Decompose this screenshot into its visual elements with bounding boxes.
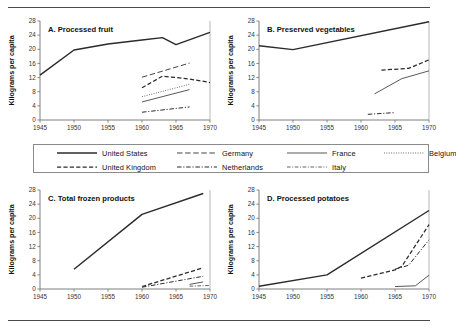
x-tick-label: 1945: [252, 124, 267, 131]
legend-swatch-germany: [176, 149, 218, 157]
x-tick-label: 1955: [101, 124, 116, 131]
series-line-united-states: [74, 194, 203, 270]
x-tick-label: 1945: [33, 124, 48, 131]
x-tick-label: 1945: [252, 293, 267, 300]
x-tick-label: 1965: [169, 293, 184, 300]
series-line-united-states: [40, 32, 210, 75]
legend-label-netherlands: Netherlands: [222, 163, 263, 172]
x-tick-label: 1960: [354, 124, 369, 131]
legend-swatch-italy: [286, 163, 328, 171]
y-tick-label: 20: [29, 214, 37, 221]
series-line-belgium: [142, 84, 190, 96]
legend-item-united-states[interactable]: United States: [56, 149, 176, 158]
y-tick-label: 12: [29, 243, 37, 250]
series-line-united-kingdom: [142, 76, 210, 88]
series-line-netherlands: [142, 276, 203, 287]
legend-item-france[interactable]: France: [286, 149, 383, 158]
x-tick-label: 1950: [286, 124, 301, 131]
legend-item-germany[interactable]: Germany: [176, 149, 286, 158]
x-tick-label: 1965: [169, 124, 184, 131]
y-tick-label: 24: [248, 200, 256, 207]
panel-title: A. Processed fruit: [48, 25, 113, 34]
y-axis-title: Kilograms per capita: [227, 204, 235, 274]
panel-title: D. Processed potatoes: [267, 194, 349, 203]
x-tick-label: 1965: [388, 293, 403, 300]
legend-item-netherlands[interactable]: Netherlands: [176, 163, 286, 172]
series-line-united-states: [259, 211, 429, 287]
chart-legend: United StatesGermanyFranceBelgiumUnited …: [33, 144, 429, 173]
y-axis-title: Kilograms per capita: [227, 35, 235, 105]
y-tick-label: 4: [251, 271, 255, 278]
y-tick-label: 12: [29, 74, 37, 81]
series-line-france: [190, 282, 204, 284]
y-tick-label: 4: [251, 102, 255, 109]
y-tick-label: 12: [248, 243, 256, 250]
panel-title: B. Preserved vegetables: [267, 25, 355, 34]
y-tick-label: 4: [32, 102, 36, 109]
legend-label-france: France: [332, 149, 356, 158]
series-line-france: [375, 71, 429, 94]
legend-label-united-kingdom: United Kingdom: [102, 163, 156, 172]
y-tick-label: 20: [248, 45, 256, 52]
y-tick-label: 24: [248, 31, 256, 38]
x-tick-label: 1970: [203, 124, 218, 131]
legend-item-italy[interactable]: Italy: [286, 163, 383, 172]
x-tick-label: 1955: [320, 124, 335, 131]
y-tick-label: 28: [248, 186, 256, 193]
y-tick-label: 8: [32, 88, 36, 95]
legend-swatch-belgium: [383, 149, 425, 157]
chart-svg-c: 0481216202428194519501955196019651970Kil…: [4, 183, 219, 309]
y-tick-label: 0: [251, 116, 255, 123]
chart-panel-b: 0481216202428194519501955196019651970Kil…: [223, 14, 438, 140]
series-line-netherlands: [142, 107, 190, 112]
legend-label-belgium: Belgium: [429, 149, 456, 158]
legend-label-italy: Italy: [332, 163, 346, 172]
x-tick-label: 1950: [286, 293, 301, 300]
x-tick-label: 1955: [101, 293, 116, 300]
series-line-netherlands: [368, 113, 395, 115]
x-tick-label: 1960: [135, 124, 150, 131]
chart-svg-a: 0481216202428194519501955196019651970Kil…: [4, 14, 219, 140]
x-tick-label: 1960: [135, 293, 150, 300]
x-tick-label: 1970: [422, 293, 437, 300]
legend-swatch-netherlands: [176, 163, 218, 171]
legend-item-united-kingdom[interactable]: United Kingdom: [56, 163, 176, 172]
x-tick-label: 1970: [422, 124, 437, 131]
y-tick-label: 8: [251, 88, 255, 95]
x-tick-label: 1960: [354, 293, 369, 300]
legend-item-belgium[interactable]: Belgium: [383, 149, 452, 158]
y-tick-label: 0: [32, 285, 36, 292]
y-tick-label: 0: [251, 285, 255, 292]
header-divider: [8, 7, 430, 8]
y-tick-label: 16: [29, 229, 37, 236]
panel-title: C. Total frozen products: [48, 194, 135, 203]
y-tick-label: 12: [248, 74, 256, 81]
legend-swatch-united-kingdom: [56, 163, 98, 171]
series-line-france: [142, 90, 190, 102]
y-tick-label: 28: [29, 186, 37, 193]
y-tick-label: 24: [29, 200, 37, 207]
y-tick-label: 20: [248, 214, 256, 221]
footer-divider: [8, 320, 430, 321]
y-tick-label: 28: [248, 17, 256, 24]
y-axis-title: Kilograms per capita: [8, 204, 16, 274]
chart-panel-a: 0481216202428194519501955196019651970Kil…: [4, 14, 219, 140]
x-tick-label: 1950: [67, 293, 82, 300]
x-tick-label: 1970: [203, 293, 218, 300]
series-line-netherlands: [395, 240, 429, 269]
y-tick-label: 8: [32, 257, 36, 264]
y-tick-label: 20: [29, 45, 37, 52]
y-tick-label: 16: [248, 60, 256, 67]
series-line-germany: [142, 63, 190, 77]
y-tick-label: 4: [32, 271, 36, 278]
chart-panel-c: 0481216202428194519501955196019651970Kil…: [4, 183, 219, 309]
chart-panel-d: 0481216202428194519501955196019651970Kil…: [223, 183, 438, 309]
chart-svg-d: 0481216202428194519501955196019651970Kil…: [223, 183, 438, 309]
series-line-united-kingdom: [381, 60, 429, 70]
series-line-italy: [190, 285, 210, 286]
y-tick-label: 8: [251, 257, 255, 264]
y-axis-title: Kilograms per capita: [8, 35, 16, 105]
x-tick-label: 1945: [33, 293, 48, 300]
legend-swatch-france: [286, 149, 328, 157]
y-tick-label: 16: [29, 60, 37, 67]
